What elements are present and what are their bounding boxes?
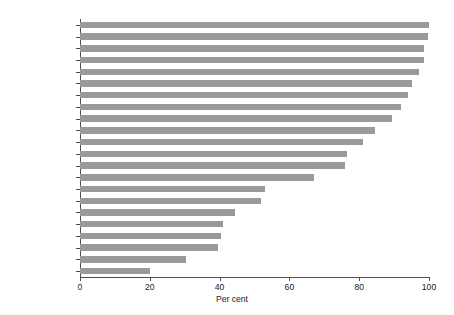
bar-row: Greece	[80, 265, 429, 277]
x-axis-tick	[359, 277, 360, 281]
bar	[80, 45, 424, 51]
bar-row: UK	[80, 171, 429, 183]
plot-area: IrelandSwedenNew ZealandNorwayFinlandAus…	[80, 19, 429, 277]
bar	[80, 198, 261, 204]
x-axis-tick	[220, 277, 221, 281]
bar-row: Germany	[80, 195, 429, 207]
bar-row: New Zealand	[80, 42, 429, 54]
bar	[80, 256, 186, 262]
bar	[80, 244, 218, 250]
bar	[80, 268, 150, 274]
x-axis-tick	[289, 277, 290, 281]
bar-row: United States	[80, 125, 429, 137]
bar	[80, 104, 401, 110]
bar-row: Brazil	[80, 218, 429, 230]
bar-row: Spain	[80, 254, 429, 266]
x-axis-tick	[80, 277, 81, 281]
bar-row: Sweden	[80, 31, 429, 43]
bar	[80, 162, 345, 168]
bar	[80, 69, 419, 75]
x-axis-title: Per cent	[0, 294, 454, 304]
x-axis-tick-label: 20	[130, 282, 170, 293]
x-axis-tick-label: 0	[60, 282, 100, 293]
x-axis-title-label: Per cent	[216, 294, 248, 304]
bar	[80, 22, 429, 28]
bar	[80, 139, 363, 145]
bar	[80, 209, 235, 215]
bar	[80, 186, 265, 192]
x-axis-tick	[429, 277, 430, 281]
x-axis-tick-label: 80	[339, 282, 379, 293]
bar-row: Ireland	[80, 19, 429, 31]
bar-row: Luxembourg	[80, 136, 429, 148]
bar-row: France	[80, 207, 429, 219]
x-axis-tick-label: 100	[409, 282, 449, 293]
bar	[80, 115, 392, 121]
bar	[80, 92, 408, 98]
bar	[80, 221, 223, 227]
bar-row: Italy	[80, 230, 429, 242]
bar	[80, 33, 428, 39]
bar-row: Netherlands	[80, 101, 429, 113]
bar-chart: IrelandSwedenNew ZealandNorwayFinlandAus…	[0, 0, 454, 315]
x-axis-tick	[150, 277, 151, 281]
bar-row: Poland	[80, 160, 429, 172]
bar-row: Austria	[80, 78, 429, 90]
x-axis-tick-label: 60	[269, 282, 309, 293]
bar-row: Canada	[80, 242, 429, 254]
x-axis-line	[80, 277, 429, 278]
bar	[80, 233, 221, 239]
bar	[80, 80, 412, 86]
bar-row: Norway	[80, 54, 429, 66]
bar-row: Belgium	[80, 183, 429, 195]
bar-row: Kenya	[80, 148, 429, 160]
bar	[80, 57, 424, 63]
bar-row: Denmark	[80, 89, 429, 101]
bar	[80, 174, 314, 180]
bar	[80, 151, 347, 157]
x-axis-tick-label: 40	[200, 282, 240, 293]
bar	[80, 127, 375, 133]
bar-row: Finland	[80, 66, 429, 78]
bar-row: Portugal	[80, 113, 429, 125]
